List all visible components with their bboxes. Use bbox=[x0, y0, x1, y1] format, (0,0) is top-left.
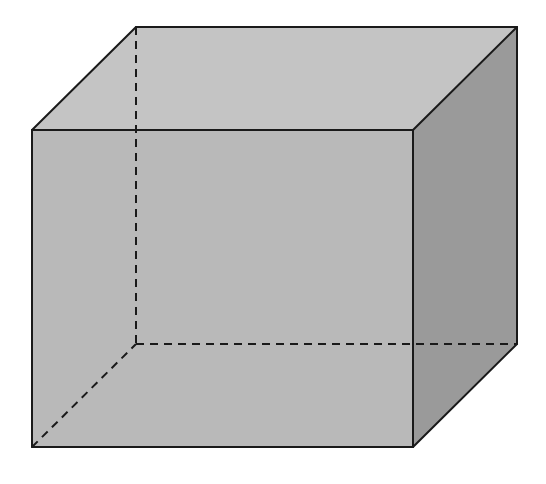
diagram-canvas bbox=[0, 0, 546, 484]
cube-diagram bbox=[0, 0, 546, 484]
front-face bbox=[32, 130, 413, 447]
faces-group bbox=[32, 27, 517, 447]
